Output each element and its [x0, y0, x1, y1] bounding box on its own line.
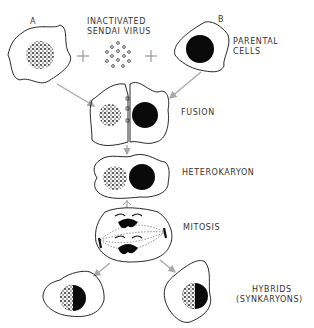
- nucleus-a-speckled: [26, 41, 54, 69]
- hybrid-cell-right: [164, 261, 210, 323]
- label-virus-line1: INACTIVATED: [87, 17, 146, 26]
- heterokaryon-cell: [94, 154, 169, 198]
- arrow-to-hybrid-left: [94, 263, 110, 276]
- label-cell-a: A: [30, 17, 36, 26]
- label-heterokaryon: HETEROKARYON: [182, 168, 254, 177]
- cell-fusion-diagram: [0, 0, 314, 328]
- nucleus-b-solid: [186, 35, 214, 63]
- parental-cell-a: [8, 25, 71, 83]
- virus-particles: [106, 42, 131, 68]
- label-hybrids-line2: (SYNKARYONS): [236, 295, 303, 304]
- label-parental-line1: PARENTAL: [233, 37, 278, 46]
- hybrid-cell-left: [43, 271, 104, 316]
- label-mitosis: MITOSIS: [183, 223, 220, 232]
- arrow-b-to-fusion: [170, 72, 201, 98]
- arrow-a-to-fusion: [57, 84, 94, 106]
- fusion-cells: [90, 83, 168, 146]
- label-fusion: FUSION: [181, 108, 215, 117]
- parental-cell-b: [175, 22, 229, 72]
- label-virus-line2: SENDAI VIRUS: [87, 27, 151, 36]
- label-hybrids-line1: HYBRIDS: [252, 285, 292, 294]
- mitosis-cell: [95, 208, 171, 262]
- label-cell-b: B: [218, 15, 224, 24]
- arrow-to-hybrid-right: [160, 260, 175, 272]
- label-parental-line2: CELLS: [233, 47, 261, 56]
